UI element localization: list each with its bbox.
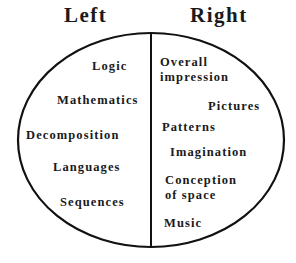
- left-item-decomposition: Decomposition: [26, 128, 119, 142]
- right-item-conception-of-space-line2: of space: [165, 188, 217, 202]
- right-item-pictures: Pictures: [208, 99, 260, 113]
- right-hemisphere-heading: Right: [190, 5, 248, 26]
- right-item-overall-impression-line2: impression: [160, 70, 229, 84]
- hemisphere-diagram: Left Right Logic Mathematics Decompositi…: [0, 0, 296, 263]
- right-item-music: Music: [164, 216, 202, 230]
- right-item-overall-impression-line1: Overall: [160, 55, 208, 69]
- left-item-languages: Languages: [53, 160, 121, 174]
- right-item-conception-of-space-line1: Conception: [165, 173, 237, 187]
- left-item-sequences: Sequences: [60, 195, 125, 209]
- right-item-imagination: Imagination: [170, 145, 247, 159]
- left-item-logic: Logic: [92, 59, 127, 73]
- left-hemisphere-heading: Left: [64, 5, 107, 26]
- left-item-mathematics: Mathematics: [57, 93, 139, 107]
- right-item-patterns: Patterns: [162, 120, 216, 134]
